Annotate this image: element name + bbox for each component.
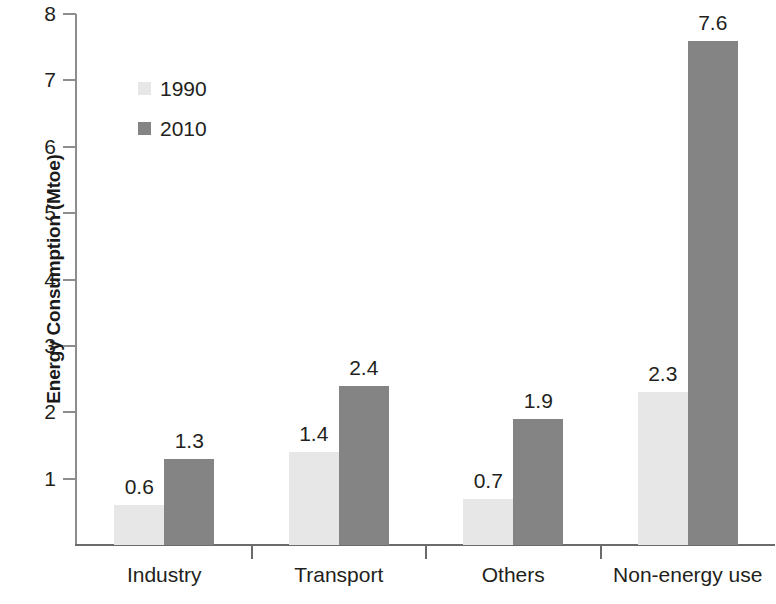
legend-label-1990: 1990: [160, 78, 207, 99]
y-axis-tick-label: 4: [0, 269, 56, 290]
bar-others-1990: [463, 499, 513, 545]
bar-value-label: 1.9: [501, 390, 575, 411]
legend-swatch-2010-icon: [138, 122, 151, 135]
y-axis-tick-label: 7: [0, 69, 56, 90]
bar-transport-1990: [289, 452, 339, 545]
bar-non-energy-use-2010: [688, 41, 738, 545]
y-axis-tick-label: 1: [0, 468, 56, 489]
bar-industry-1990: [114, 505, 164, 545]
bar-value-label: 7.6: [676, 12, 750, 33]
bar-others-2010: [513, 419, 563, 545]
bar-industry-2010: [164, 459, 214, 545]
x-axis-separator-tick: [251, 546, 253, 559]
y-axis-tick-label: 3: [0, 335, 56, 356]
y-axis-tick-label: 6: [0, 136, 56, 157]
x-axis-separator-tick: [425, 546, 427, 559]
x-axis-label-non-energy-use: Non-energy use: [601, 563, 776, 586]
legend: 1990 2010: [138, 68, 207, 148]
bar-non-energy-use-1990: [638, 392, 688, 545]
bar-transport-2010: [339, 386, 389, 545]
legend-label-2010: 2010: [160, 118, 207, 139]
legend-swatch-1990-icon: [138, 82, 151, 95]
y-axis-tick-label: 8: [0, 3, 56, 24]
bar-value-label: 2.4: [327, 357, 401, 378]
x-axis-label-transport: Transport: [252, 563, 427, 586]
legend-item-1990: 1990: [138, 68, 207, 108]
x-axis-label-others: Others: [426, 563, 601, 586]
y-axis-tick-label: 2: [0, 401, 56, 422]
bar-value-label: 1.3: [152, 430, 226, 451]
x-axis-label-industry: Industry: [77, 563, 252, 586]
bar-chart: Energy Consumption (Mtoe) 12345678 0.61.…: [0, 0, 776, 604]
y-axis-tick-label: 5: [0, 202, 56, 223]
x-axis-separator-tick: [600, 546, 602, 559]
legend-item-2010: 2010: [138, 108, 207, 148]
